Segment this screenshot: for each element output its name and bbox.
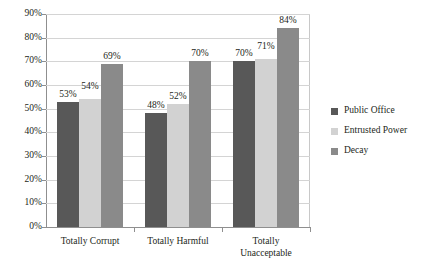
bar [145,113,167,227]
x-axis-tick [134,227,135,232]
y-axis-tick [42,180,46,181]
y-axis-tick [42,156,46,157]
y-axis-tick [42,14,46,15]
x-axis-tick [310,227,311,232]
bar-value-label: 52% [161,92,195,102]
bar [167,104,189,227]
bar-value-label: 69% [95,52,129,62]
bar-value-label: 48% [139,101,173,111]
category-label-line: Unacceptable [222,248,310,260]
y-axis-tick [42,109,46,110]
bar [277,28,299,227]
y-axis-tick [42,203,46,204]
plot-area: 53%54%69%48%52%70%70%71%84% [46,14,310,228]
legend-swatch-icon [331,108,338,115]
y-axis-tick-label: 10% [0,198,42,208]
y-axis-tick [42,38,46,39]
legend-swatch-icon [331,128,338,135]
bar-value-label: 54% [73,82,107,92]
category-label-line: Totally Harmful [134,236,222,248]
legend-item-public-office: Public Office [331,101,407,121]
x-axis-tick [222,227,223,232]
bar-chart: 53%54%69%48%52%70%70%71%84% 90%80%70%60%… [0,0,422,269]
y-axis-tick [42,132,46,133]
legend-swatch-icon [331,148,338,155]
category-label-line: Totally Corrupt [46,236,134,248]
bar [189,61,211,227]
y-axis-tick-label: 70% [0,56,42,66]
y-axis-tick-label: 20% [0,175,42,185]
y-axis-tick-label: 90% [0,9,42,19]
y-axis-tick [42,85,46,86]
legend-item-decay: Decay [331,141,407,161]
x-axis-line [46,227,310,228]
y-axis-tick-label: 60% [0,80,42,90]
bar [255,59,277,227]
legend-item-entrusted-power: Entrusted Power [331,121,407,141]
bar [233,61,255,227]
y-axis-line [46,14,47,228]
x-axis-category-label: Totally Harmful [134,236,222,248]
bar [79,99,101,227]
chart-legend: Public Office Entrusted Power Decay [331,101,407,161]
y-axis-tick-label: 40% [0,127,42,137]
bar-value-label: 71% [249,42,283,52]
bar-value-label: 70% [183,49,217,59]
plot-frame-right [309,14,310,228]
legend-label: Public Office [344,106,395,116]
cropped-title-remnant [0,0,422,3]
y-axis-tick-label: 30% [0,151,42,161]
gridline [46,38,310,39]
gridline [46,14,310,15]
y-axis-tick-label: 0% [0,222,42,232]
y-axis-tick [42,61,46,62]
category-label-line: Totally [222,236,310,248]
legend-label: Decay [344,146,368,156]
x-axis-category-label: Totally Corrupt [46,236,134,248]
bar-value-label: 84% [271,16,305,26]
legend-label: Entrusted Power [344,126,407,136]
y-axis-tick [42,227,46,228]
x-axis-category-label: TotallyUnacceptable [222,236,310,259]
y-axis-tick-label: 50% [0,104,42,114]
bar [57,102,79,227]
y-axis-tick-label: 80% [0,33,42,43]
